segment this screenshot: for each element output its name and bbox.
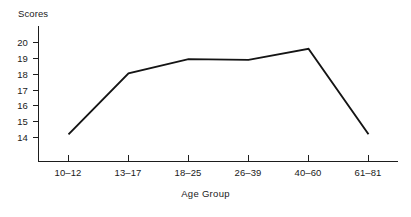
y-tick-label: 19 xyxy=(4,54,28,64)
y-tick-label: 17 xyxy=(4,86,28,96)
y-tick-label: 15 xyxy=(4,117,28,127)
x-tick-label: 10–12 xyxy=(38,168,98,178)
plot-area xyxy=(0,0,411,217)
data-series-line xyxy=(69,49,369,135)
x-tick-label: 18–25 xyxy=(158,168,218,178)
x-tick-label: 13–17 xyxy=(98,168,158,178)
line-chart: Scores 20 19 18 17 16 15 14 10–12 13–17 … xyxy=(0,0,411,217)
y-tick-label: 20 xyxy=(4,38,28,48)
x-tick-label: 61–81 xyxy=(338,168,398,178)
x-tick-label: 26–39 xyxy=(218,168,278,178)
y-tick-label: 18 xyxy=(4,70,28,80)
y-tick-label: 16 xyxy=(4,101,28,111)
x-axis-title: Age Group xyxy=(0,188,411,200)
y-tick-label: 14 xyxy=(4,133,28,143)
x-tick-label: 40–60 xyxy=(278,168,338,178)
